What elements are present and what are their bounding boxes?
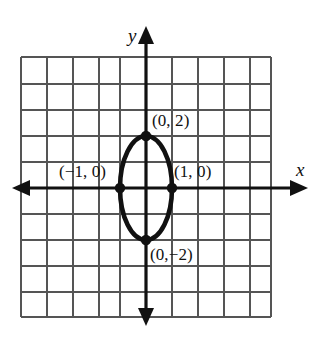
x-axis-label: x [296, 160, 304, 179]
x-axis [12, 180, 308, 196]
point-marker-0-2 [141, 131, 151, 141]
point-label-left: (−1, 0) [59, 163, 106, 180]
x-axis-right-arrowhead [290, 180, 308, 196]
graph-canvas [0, 0, 317, 347]
graph-figure: (0, 2) (−1, 0) (1, 0) (0,−2) y x [0, 0, 317, 347]
y-axis-top-arrowhead [138, 26, 154, 44]
point-label-right: (1, 0) [174, 163, 211, 180]
point-label-bottom: (0,−2) [150, 246, 193, 263]
point-label-top: (0, 2) [152, 112, 189, 129]
point-marker-0-neg2 [141, 235, 151, 245]
y-axis [138, 26, 154, 326]
y-axis-label: y [128, 26, 136, 45]
point-marker-neg1-0 [115, 183, 125, 193]
point-marker-1-0 [167, 183, 177, 193]
